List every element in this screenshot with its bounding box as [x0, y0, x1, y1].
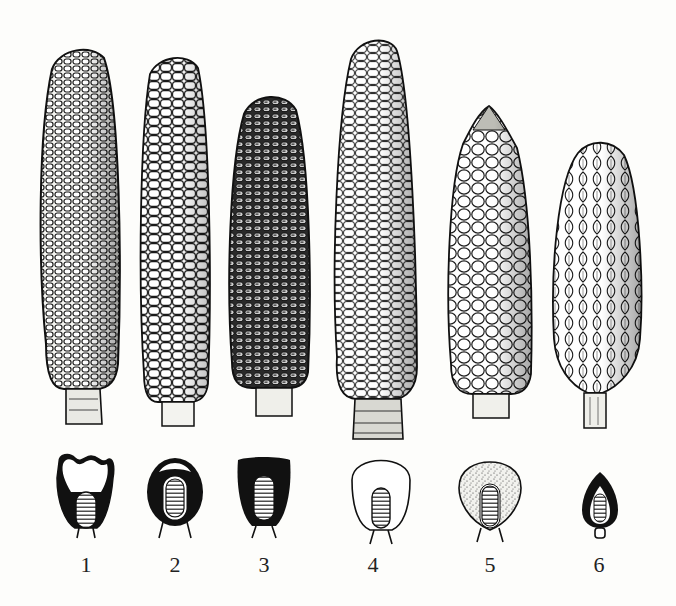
corn-ear-6	[548, 139, 646, 431]
kernel-section-4	[346, 450, 416, 546]
label-4: 4	[353, 552, 393, 578]
corn-ear-4	[331, 37, 423, 443]
corn-ear-5	[443, 104, 537, 422]
corn-ear-3	[226, 92, 314, 420]
kernel-section-5	[457, 460, 523, 544]
label-1: 1	[66, 552, 106, 578]
corn-ear-2	[136, 54, 216, 429]
kernel-section-6	[580, 470, 620, 542]
kernel-section-2	[145, 454, 205, 540]
label-5: 5	[470, 552, 510, 578]
label-6: 6	[579, 552, 619, 578]
label-2: 2	[155, 552, 195, 578]
maize-types-figure: 1 2 3 4 5 6	[0, 0, 676, 606]
label-3: 3	[244, 552, 284, 578]
kernel-section-3	[236, 454, 292, 540]
kernel-section-1	[55, 452, 117, 540]
corn-ear-1	[36, 44, 126, 429]
